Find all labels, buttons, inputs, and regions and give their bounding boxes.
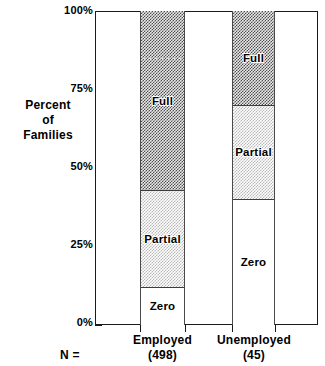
bar-segment-unemployed-full[interactable]: Full: [232, 11, 275, 105]
bar-segment-employed-full[interactable]: Full: [140, 11, 185, 190]
bar-segment-unemployed-partial[interactable]: Partial: [232, 105, 275, 199]
bar-segment-employed-zero[interactable]: Zero: [140, 287, 185, 325]
bar-segment-label-partial: Partial: [144, 233, 181, 245]
y-axis-title-line-1: Percent: [6, 98, 90, 113]
y-tick-label-75: 75%: [33, 82, 93, 94]
x-category-count-unemployed: (45): [200, 348, 308, 362]
y-tick-label-25: 25%: [33, 238, 93, 250]
bar-segment-label-zero: Zero: [241, 256, 267, 268]
inner-dotted-rule: [142, 58, 183, 59]
y-axis-title-line-2: of: [6, 113, 90, 128]
y-tick-label-0: 0%: [33, 316, 93, 328]
x-tick-mark-4: [275, 325, 276, 332]
y-tick-label-100: 100%: [33, 4, 93, 16]
segment-divider: [141, 190, 184, 191]
x-tick-mark-2: [185, 325, 186, 332]
x-tick-mark-3: [232, 325, 233, 332]
bar-segment-label-partial: Partial: [235, 146, 272, 158]
stacked-bar-chart: Percent of Families 100% 75% 50% 25% 0% …: [0, 0, 325, 366]
segment-divider: [141, 287, 184, 288]
y-tick-mark-0: [95, 325, 102, 326]
bar-unemployed[interactable]: Full Partial Zero: [232, 11, 275, 325]
bar-segment-label-full: Full: [243, 52, 264, 64]
bar-segment-label-full: Full: [152, 95, 173, 107]
plot-area: [95, 11, 318, 325]
x-category-label-unemployed: Unemployed: [200, 333, 308, 347]
segment-divider: [233, 105, 274, 106]
y-axis-title-line-3: Families: [6, 128, 90, 143]
y-axis-title: Percent of Families: [6, 98, 90, 143]
segment-divider: [233, 199, 274, 200]
bar-employed[interactable]: Full Partial Zero: [140, 11, 185, 325]
x-tick-mark-1: [140, 325, 141, 332]
bar-segment-unemployed-zero[interactable]: Zero: [232, 199, 275, 325]
bar-segment-label-zero: Zero: [150, 300, 176, 312]
sample-size-prefix: N =: [60, 348, 80, 362]
bar-segment-employed-partial[interactable]: Partial: [140, 190, 185, 287]
y-tick-label-50: 50%: [33, 160, 93, 172]
